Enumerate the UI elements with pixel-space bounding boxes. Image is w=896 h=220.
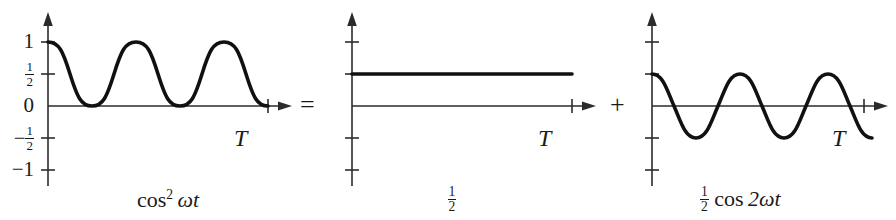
panel-3-y-arrow [647,12,657,26]
panel-1-xaxis-label-T: T [234,126,247,150]
panel-3-caption: 1 2 cos 2ωt [700,186,896,216]
panel-1-caption: cos2 ωt [58,188,278,211]
panel-3-xaxis-label-T: T [832,126,845,150]
panel-3-plot [604,0,896,200]
equation-figure: 1 1 2 0 − 1 2 −1 T cos2 ωt = [0,0,896,220]
panel-2-caption: 1 2 [392,186,512,216]
panel-2-xaxis-label-T: T [538,126,551,150]
panel-1-ylabel-0: 0 [8,95,34,116]
panel-2-x-arrow [582,101,596,110]
panel-2-plot [304,0,604,200]
panel-1-plot [0,0,300,200]
panel-1-y-arrow [43,12,53,26]
fraction-one-half: 1 2 [25,60,34,88]
minus-sign-icon: − [14,128,26,149]
panel-1-ylabel-neghalf: − 1 2 [0,125,34,153]
panel-1-curve [48,42,268,106]
panel-3-x-arrow [874,101,888,110]
panel-1-x-arrow [278,101,292,110]
panel-2-y-arrow [347,12,357,26]
panel-1-ylabel-1: 1 [8,31,34,52]
panel-1-ylabel-neg1: −1 [0,159,34,180]
panel-1-ylabel-half: 1 2 [8,61,34,89]
fraction-one-half: 1 2 [700,185,709,215]
fraction-one-half: 1 2 [25,124,34,152]
fraction-one-half: 1 2 [448,185,457,215]
